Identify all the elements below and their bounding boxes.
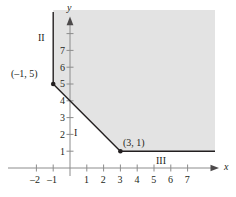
vertex-point-minus1-5 — [51, 82, 56, 87]
y-tick-label-1: 1 — [60, 147, 65, 157]
x-tick-label-2: 2 — [101, 175, 106, 185]
y-tick-label-6: 6 — [60, 63, 65, 73]
x-tick-label-7: 7 — [185, 175, 190, 185]
coordinate-plane-figure: y x –2 –1 1 2 3 4 5 6 7 1 2 3 4 5 6 7 I … — [0, 0, 236, 197]
y-tick-label-3: 3 — [60, 113, 65, 123]
x-tick-label-minus1: –1 — [47, 175, 57, 185]
x-axis-label: x — [224, 162, 228, 172]
region-label-i: I — [74, 128, 77, 138]
y-axis-label: y — [67, 3, 71, 13]
shaded-region — [53, 10, 215, 151]
plot-svg — [0, 0, 236, 197]
x-axis-arrowhead — [211, 165, 220, 172]
x-tick-label-4: 4 — [134, 175, 139, 185]
vertex-point-3-1 — [118, 149, 123, 154]
region-label-iii: III — [156, 156, 166, 166]
region-label-ii: II — [38, 33, 45, 43]
y-tick-label-7: 7 — [60, 46, 65, 56]
point-label-minus1-5: (–1, 5) — [11, 69, 38, 79]
x-tick-label-minus2: –2 — [30, 175, 40, 185]
x-tick-label-5: 5 — [151, 175, 156, 185]
x-tick-label-6: 6 — [168, 175, 173, 185]
y-tick-label-2: 2 — [60, 130, 65, 140]
y-tick-label-4: 4 — [60, 96, 65, 106]
x-tick-label-1: 1 — [84, 175, 89, 185]
x-tick-label-3: 3 — [118, 175, 123, 185]
y-tick-label-5: 5 — [60, 79, 65, 89]
point-label-3-1: (3, 1) — [123, 138, 145, 148]
